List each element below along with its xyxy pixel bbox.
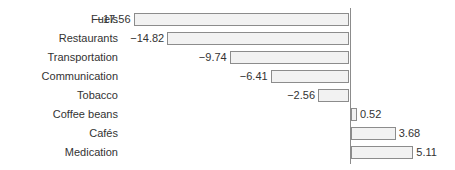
category-label: Tobacco: [0, 89, 118, 102]
value-label: −6.41: [240, 70, 268, 83]
bar: [230, 51, 350, 64]
bar: [351, 108, 357, 121]
category-label: Communication: [0, 70, 118, 83]
bar: [351, 146, 414, 159]
bar: [134, 13, 350, 26]
category-label: Medication: [0, 146, 118, 159]
bar: [351, 127, 396, 140]
value-label: −14.82: [130, 32, 164, 45]
value-label: −17.56: [97, 13, 131, 26]
bar: [167, 32, 349, 45]
value-label: 0.52: [360, 108, 381, 121]
bar: [271, 70, 350, 83]
diverging-bar-chart: Fuels−17.56Restaurants−14.82Transportati…: [0, 0, 455, 170]
value-label: −2.56: [287, 89, 315, 102]
zero-axis-line: [350, 8, 351, 164]
value-label: −9.74: [199, 51, 227, 64]
bar: [318, 89, 349, 102]
category-label: Restaurants: [0, 32, 118, 45]
category-label: Cafés: [0, 127, 118, 140]
category-label: Coffee beans: [0, 108, 118, 121]
value-label: 3.68: [399, 127, 420, 140]
category-label: Transportation: [0, 51, 118, 64]
value-label: 5.11: [416, 146, 437, 159]
